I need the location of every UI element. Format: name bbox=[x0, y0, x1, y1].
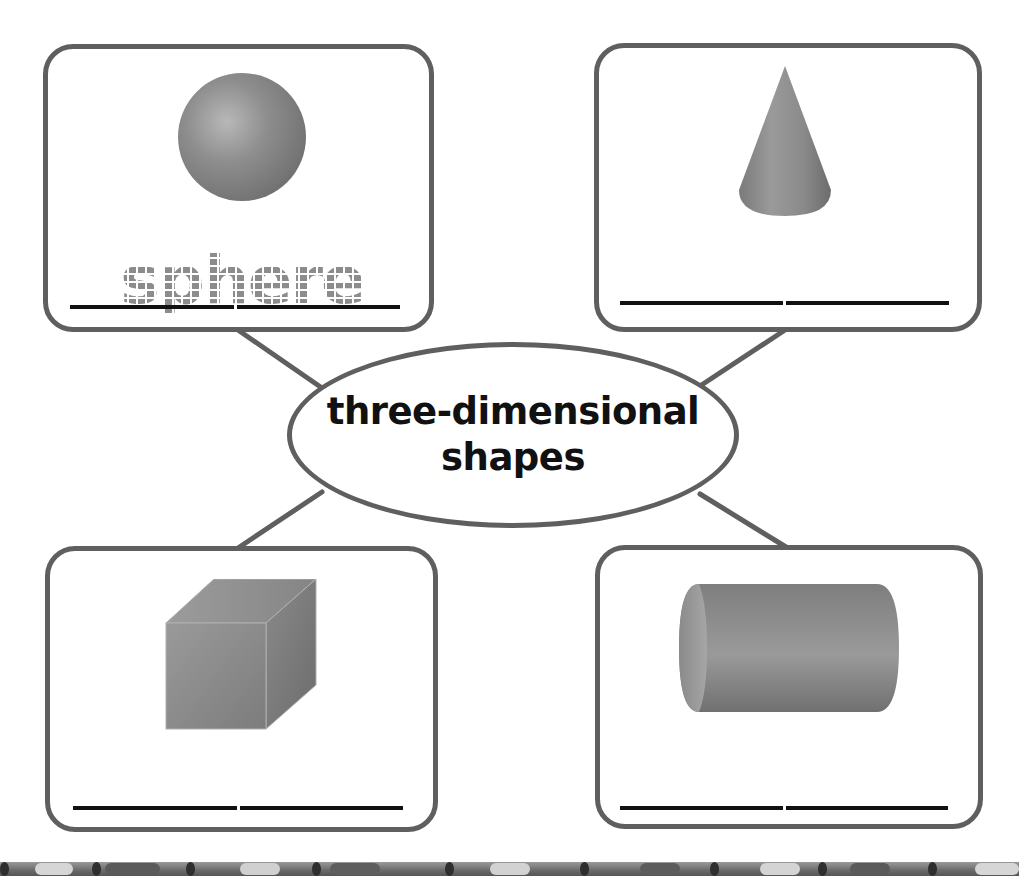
center-topic-line1: three-dimensional bbox=[327, 389, 700, 435]
connector-bottom-left bbox=[238, 492, 322, 548]
connector-top-left bbox=[238, 330, 322, 388]
connector-bottom-right bbox=[700, 494, 786, 547]
shape-box-sphere: sphere bbox=[43, 44, 434, 332]
center-topic-ellipse: three-dimensional shapes bbox=[287, 342, 739, 528]
answer-line-cylinder[interactable] bbox=[620, 806, 948, 810]
shape-box-cube bbox=[45, 546, 438, 832]
cube-icon bbox=[164, 579, 320, 733]
answer-line-cube[interactable] bbox=[73, 806, 403, 810]
cylinder-icon bbox=[677, 582, 903, 716]
cone-icon bbox=[735, 64, 835, 220]
traced-word-sphere: sphere bbox=[102, 235, 382, 315]
shape-box-cylinder bbox=[595, 545, 983, 829]
connector-top-right bbox=[700, 330, 785, 386]
shape-box-cone bbox=[594, 43, 982, 332]
decorative-border-strip bbox=[0, 862, 1019, 876]
sphere-icon bbox=[174, 69, 310, 205]
answer-line-cone[interactable] bbox=[620, 301, 949, 305]
center-topic-line2: shapes bbox=[441, 435, 585, 481]
answer-line-sphere[interactable] bbox=[70, 305, 400, 309]
